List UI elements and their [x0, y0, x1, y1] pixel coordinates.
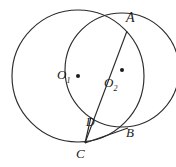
center-label-o2: O2: [104, 76, 117, 93]
point-label-b: B: [126, 126, 134, 139]
center-dot-o2: [120, 68, 124, 72]
point-label-a: A: [126, 11, 135, 25]
geometry-canvas: [0, 0, 176, 167]
center-label-o2-subscript: 2: [113, 84, 117, 93]
segment-c-b: [85, 128, 128, 143]
center-label-o1: O1: [57, 68, 70, 85]
center-label-o2-base: O: [104, 75, 113, 90]
point-label-c: C: [76, 147, 85, 160]
point-label-d: D: [86, 116, 95, 128]
center-label-o1-subscript: 1: [66, 76, 70, 85]
center-label-o1-base: O: [57, 67, 66, 82]
center-dot-o1: [76, 74, 80, 78]
geometry-figure: A B C D O1 O2: [0, 0, 176, 167]
